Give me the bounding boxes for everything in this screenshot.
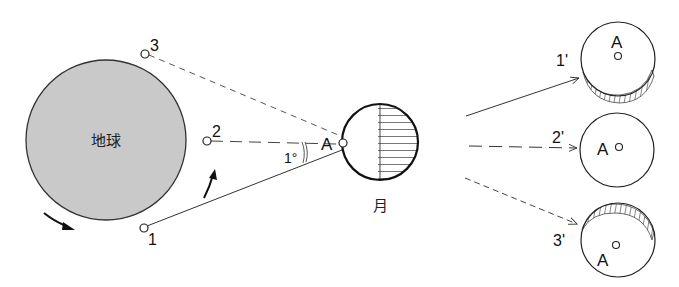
parallax-diagram: 地球 1° 3 2 1 A 月 A 1'	[0, 0, 679, 287]
view-1p-point-marker	[615, 53, 622, 60]
point-1-label: 1	[148, 231, 157, 248]
angle-label: 1°	[284, 150, 297, 166]
view-3p-dark-crescent	[582, 204, 654, 240]
view-3p-point-marker	[613, 242, 620, 249]
point-3-marker	[141, 50, 149, 58]
view-2p-point-label: A	[597, 140, 609, 159]
view-line-1p	[466, 78, 579, 116]
view-1p-label: 1'	[556, 52, 568, 69]
view-3p-label: 3'	[553, 232, 565, 249]
view-3p: A 3'	[553, 203, 655, 277]
view-3p-point-label: A	[597, 251, 609, 270]
moon-point-a-label: A	[321, 135, 333, 154]
point-2-label: 2	[212, 123, 221, 140]
point-2-marker	[203, 137, 211, 145]
view-line-2p	[469, 146, 577, 148]
angle-arc	[305, 142, 307, 162]
moon-label: 月	[373, 197, 388, 215]
earth: 地球	[26, 60, 186, 220]
point-1-marker	[140, 224, 148, 232]
view-2p-label: 2'	[552, 129, 564, 146]
moon: A 月	[321, 104, 418, 215]
diagram-stage: 地球 1° 3 2 1 A 月 A 1'	[0, 0, 679, 287]
rotation-arrow-bottom	[44, 213, 75, 230]
sightline-2	[211, 141, 336, 144]
rotation-arrow-right	[204, 169, 217, 198]
view-2p-point-marker	[616, 144, 623, 151]
view-2p: A 2'	[552, 113, 654, 187]
view-1p-point-label: A	[611, 33, 623, 52]
view-1p: A 1'	[556, 22, 655, 103]
moon-point-a-marker	[339, 139, 347, 147]
earth-label: 地球	[91, 132, 121, 150]
point-3-label: 3	[150, 37, 159, 54]
view-line-3p	[465, 178, 577, 224]
view-3p-circle	[581, 203, 655, 277]
